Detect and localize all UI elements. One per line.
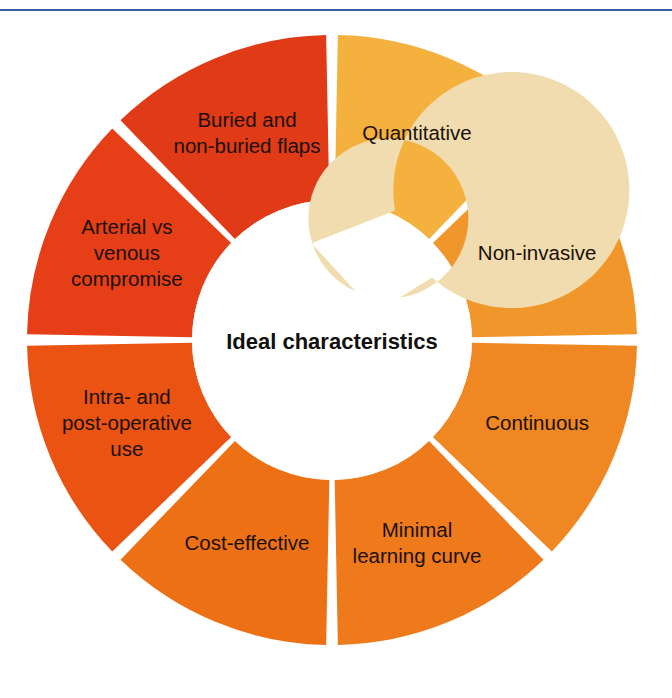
segment-label-line: Intra- and [83,385,171,408]
segment-label-line: Minimal [382,519,453,542]
ideal-characteristics-wheel: Ideal characteristics QuantitativeNon-in… [0,0,672,698]
segment-label-continuous: Continuous [485,411,589,434]
segment-label-line: Cost-effective [185,532,310,555]
segment-label-line: Continuous [485,411,589,434]
segment-label-line: learning curve [353,545,482,568]
segment-label-non-invasive: Non-invasive [478,241,597,264]
segment-label-line: post-operative [62,411,192,434]
segment-label-line: non-buried flaps [173,134,320,157]
segment-label-line: use [110,437,143,460]
segment-label-line: compromise [71,267,183,290]
segment-label-line: venous [94,241,160,264]
segment-label-cost-effective: Cost-effective [185,532,310,555]
figure-root: Ideal characteristics QuantitativeNon-in… [0,0,672,698]
segment-label-quantitative: Quantitative [362,121,471,144]
segment-label-line: Non-invasive [478,241,597,264]
segment-label-line: Quantitative [362,121,471,144]
center-label: Ideal characteristics [226,329,438,354]
segment-label-line: Arterial vs [81,215,172,238]
segment-label-line: Buried and [197,108,296,131]
